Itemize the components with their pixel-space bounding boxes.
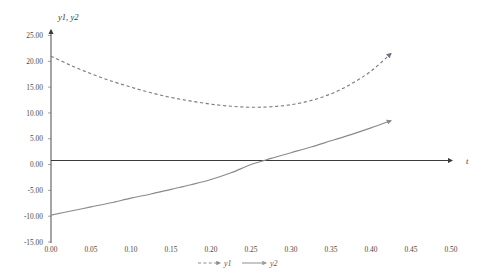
line-chart: 25.0020.0015.0010.005.000.00-5.00-10.00-… bbox=[0, 0, 485, 275]
y-axis-tick-labels: 25.0020.0015.0010.005.000.00-5.00-10.00-… bbox=[24, 31, 43, 247]
legend-label-y1: y1 bbox=[223, 259, 232, 268]
y-tick-label: 25.00 bbox=[26, 31, 43, 40]
series-y1-curve bbox=[51, 54, 391, 108]
x-tick-label: 0.50 bbox=[445, 245, 458, 254]
x-tick-label: 0.35 bbox=[325, 245, 338, 254]
y-tick-label: -5.00 bbox=[28, 186, 44, 195]
y-tick-label: 15.00 bbox=[26, 83, 43, 92]
x-tick-label: 0.15 bbox=[165, 245, 178, 254]
x-tick-label: 0.05 bbox=[85, 245, 98, 254]
x-tick-label: 0.30 bbox=[285, 245, 298, 254]
x-axis-title: t bbox=[466, 156, 469, 166]
series-y2-curve bbox=[51, 121, 391, 215]
legend-label-y2: y2 bbox=[269, 259, 278, 268]
y-tick-label: 20.00 bbox=[26, 57, 43, 66]
chart-legend: y1 y2 bbox=[198, 259, 278, 268]
chart-container: 25.0020.0015.0010.005.000.00-5.00-10.00-… bbox=[0, 0, 485, 275]
y-tick-label: -10.00 bbox=[24, 212, 43, 221]
x-axis-tick-labels: 0.000.050.100.150.200.250.300.350.400.45… bbox=[45, 245, 458, 254]
x-tick-label: 0.20 bbox=[205, 245, 218, 254]
y-tick-label: -15.00 bbox=[24, 238, 43, 247]
x-tick-label: 0.25 bbox=[245, 245, 258, 254]
x-tick-label: 0.45 bbox=[405, 245, 418, 254]
x-tick-label: 0.40 bbox=[365, 245, 378, 254]
x-tick-label: 0.10 bbox=[125, 245, 138, 254]
x-tick-label: 0.00 bbox=[45, 245, 58, 254]
y-tick-label: 5.00 bbox=[30, 134, 43, 143]
y-tick-label: 10.00 bbox=[26, 109, 43, 118]
y-tick-label: 0.00 bbox=[30, 160, 43, 169]
y-axis-title: y1, y2 bbox=[57, 12, 79, 22]
